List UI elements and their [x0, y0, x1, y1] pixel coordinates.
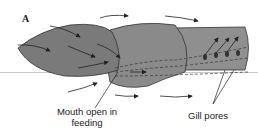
gill-pores-label: Gill pores — [188, 110, 228, 121]
panel-label: A — [22, 13, 29, 24]
proboscis — [18, 24, 119, 76]
mouth-label: Mouth open in feeding — [52, 106, 122, 128]
